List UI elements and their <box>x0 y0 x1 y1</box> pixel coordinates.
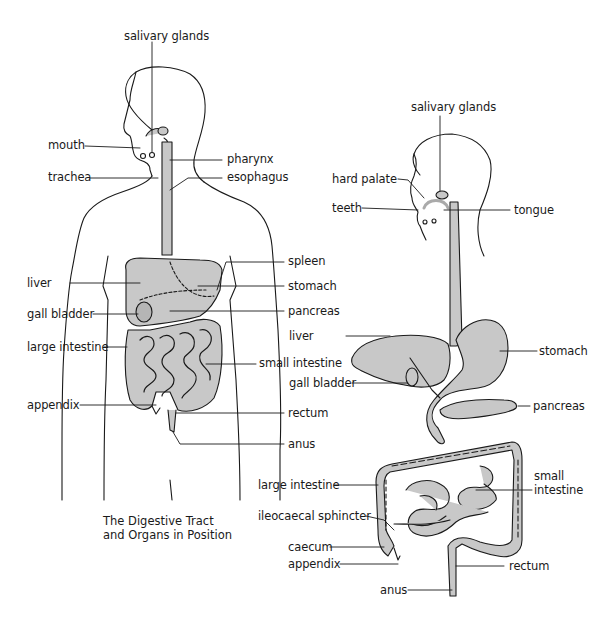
label-right-ileocaecal-sphincter: ileocaecal sphincter <box>258 510 371 523</box>
label-left-pancreas: pancreas <box>288 305 340 318</box>
label-right-stomach: stomach <box>539 345 588 358</box>
label-right-tongue: tongue <box>514 204 554 217</box>
label-right-gall-bladder: gall bladder <box>289 377 356 390</box>
label-right-teeth: teeth <box>332 202 362 215</box>
label-right-anus: anus <box>380 584 407 597</box>
label-left-mouth: mouth <box>48 139 85 152</box>
caption-line-2: and Organs in Position <box>103 528 232 542</box>
label-left-anus: anus <box>288 438 315 451</box>
caption-line-1: The Digestive Tract <box>103 514 232 528</box>
label-right-small-intestine-line1: small <box>534 470 564 483</box>
right-small-intestine <box>394 466 496 536</box>
left-esophagus <box>141 127 173 255</box>
label-left-appendix: appendix <box>27 399 80 412</box>
label-right-salivary-glands: salivary glands <box>411 101 496 114</box>
label-right-caecum: caecum <box>288 541 333 554</box>
label-left-liver: liver <box>27 277 52 290</box>
label-right-appendix: appendix <box>288 558 341 571</box>
label-left-gall-bladder: gall bladder <box>27 308 94 321</box>
label-right-rectum: rectum <box>509 560 549 573</box>
right-liver <box>352 335 450 398</box>
label-left-stomach: stomach <box>288 280 337 293</box>
label-left-small-intestine: small intestine <box>259 357 342 370</box>
label-left-esophagus: esophagus <box>227 171 288 184</box>
right-mouth-parts <box>423 191 448 224</box>
label-right-hard-palate: hard palate <box>332 173 397 186</box>
label-right-small-intestine-line2: intestine <box>534 484 583 497</box>
left-figure-caption: The Digestive Tract and Organs in Positi… <box>103 514 232 542</box>
label-left-trachea: trachea <box>48 171 91 184</box>
label-right-pancreas: pancreas <box>533 400 585 413</box>
label-right-large-intestine: large intestine <box>258 479 339 492</box>
label-right-liver: liver <box>289 330 314 343</box>
digestive-system-diagram: salivary glands mouth trachea pharynx es… <box>0 0 607 622</box>
right-pancreas <box>440 399 517 418</box>
label-left-salivary-glands: salivary glands <box>124 30 209 43</box>
label-left-spleen: spleen <box>288 255 325 268</box>
label-left-pharynx: pharynx <box>227 153 274 166</box>
label-left-large-intestine: large intestine <box>27 341 108 354</box>
label-left-rectum: rectum <box>288 407 328 420</box>
